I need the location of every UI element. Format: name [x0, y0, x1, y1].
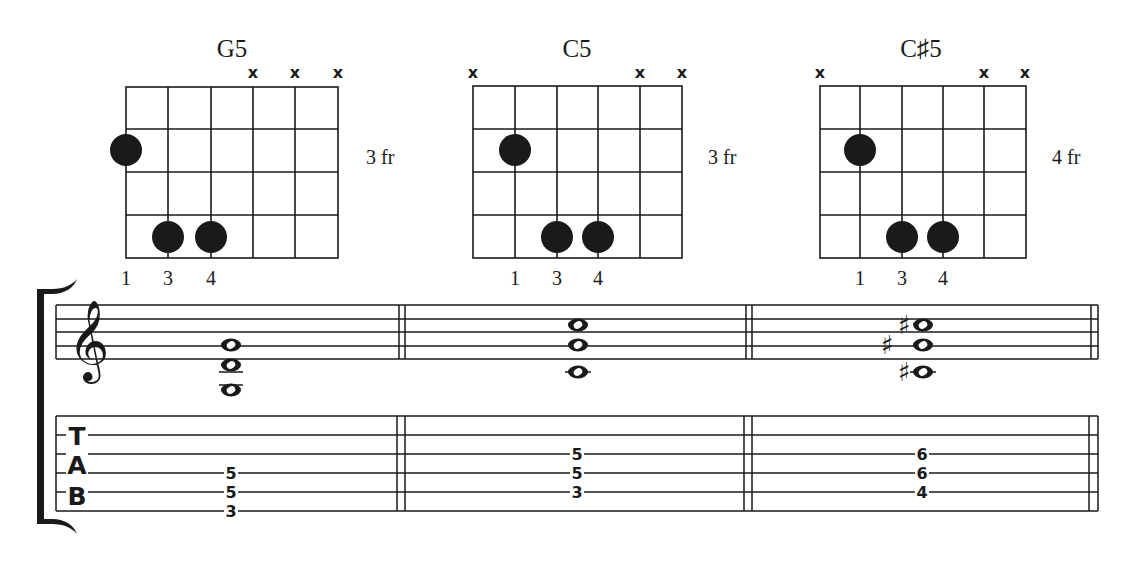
staff-chord-c-sharp-5: ♯ ♯ ♯	[881, 310, 936, 387]
sharp-icon: ♯	[898, 310, 911, 340]
chord-title: C5	[562, 35, 591, 62]
tab-clef: T A B	[66, 419, 88, 511]
staff-chord-g5	[219, 339, 243, 397]
finger-number: 1	[510, 267, 520, 289]
finger-dot	[886, 221, 918, 253]
mute-x-icon: x	[1020, 63, 1031, 82]
tab-fret-number: 6	[916, 464, 927, 483]
tab-chord-g5: 5 5 3	[224, 464, 238, 521]
finger-number: 3	[897, 267, 907, 289]
tab-fret-number: 4	[916, 483, 927, 502]
chord-diagram-c5: C5 x x x 3 fr 1 3 4	[468, 35, 737, 289]
tab-fret-number: 5	[225, 464, 236, 483]
tab-fret-number: 3	[225, 502, 236, 521]
fret-position-label: 3 fr	[708, 146, 737, 168]
fret-position-label: 4 fr	[1052, 146, 1081, 168]
finger-number: 1	[121, 267, 131, 289]
finger-number: 3	[163, 267, 173, 289]
finger-dot	[499, 134, 531, 166]
mute-x-icon: x	[979, 63, 990, 82]
finger-dot	[110, 134, 142, 166]
finger-dot	[541, 221, 573, 253]
tab-chord-c-sharp-5: 6 6 4	[915, 445, 929, 502]
finger-dot	[844, 134, 876, 166]
mute-x-icon: x	[635, 63, 646, 82]
tab-fret-number: 6	[916, 445, 927, 464]
chord-diagram-g5: G5 x x x 3 fr 1 3 4	[110, 35, 395, 289]
whole-note-g4	[221, 339, 241, 352]
whole-note-d4	[221, 359, 241, 372]
tab-fret-number: 5	[571, 445, 582, 464]
mute-markers: x x x	[248, 63, 344, 82]
whole-note-g3	[221, 384, 241, 397]
whole-note-c-sharp-5	[913, 319, 933, 332]
mute-x-icon: x	[248, 63, 259, 82]
tab-letter-a: A	[67, 451, 87, 480]
finger-dot	[152, 221, 184, 253]
tab-staff: T A B 5 5 3 5 5 3 6 6 4	[56, 416, 1098, 521]
whole-note-c-sharp-4	[913, 366, 933, 379]
whole-note-g-sharp-4	[913, 339, 933, 352]
tab-letter-b: B	[67, 482, 86, 511]
whole-note-g4	[568, 339, 588, 352]
staff-chord-c5	[565, 319, 591, 379]
mute-markers: x x x	[468, 63, 688, 82]
mute-x-icon: x	[815, 63, 826, 82]
tab-fret-number: 5	[225, 483, 236, 502]
treble-clef-icon: 𝄞	[68, 299, 109, 384]
mute-x-icon: x	[468, 63, 479, 82]
chord-chart-sheet: G5 x x x 3 fr 1 3 4 C5 x x	[0, 0, 1127, 568]
fretboard-grid	[473, 86, 682, 258]
whole-note-c5	[568, 319, 588, 332]
tab-chord-c5: 5 5 3	[570, 445, 584, 502]
barlines	[397, 416, 1098, 511]
finger-dot	[195, 221, 227, 253]
fretboard-grid	[820, 86, 1026, 258]
chord-diagram-c-sharp-5: C♯5 x x x 4 fr 1 3 4	[815, 35, 1081, 289]
finger-number: 1	[855, 267, 865, 289]
whole-note-c4	[568, 366, 588, 379]
fret-position-label: 3 fr	[366, 146, 395, 168]
sharp-icon: ♯	[898, 357, 911, 387]
finger-number: 3	[552, 267, 562, 289]
mute-x-icon: x	[290, 63, 301, 82]
tab-letter-t: T	[68, 422, 85, 451]
finger-dot	[582, 221, 614, 253]
sharp-icon: ♯	[881, 330, 894, 360]
chord-title: C♯5	[900, 35, 942, 62]
finger-number: 4	[593, 267, 603, 289]
chord-title: G5	[217, 35, 248, 62]
treble-staff: 𝄞 ♯ ♯ ♯	[56, 299, 1098, 397]
tab-fret-number: 5	[571, 464, 582, 483]
tab-fret-number: 3	[571, 483, 582, 502]
mute-x-icon: x	[333, 63, 344, 82]
finger-dot	[927, 221, 959, 253]
finger-number: 4	[206, 267, 216, 289]
mute-markers: x x x	[815, 63, 1031, 82]
finger-number: 4	[938, 267, 948, 289]
mute-x-icon: x	[677, 63, 688, 82]
